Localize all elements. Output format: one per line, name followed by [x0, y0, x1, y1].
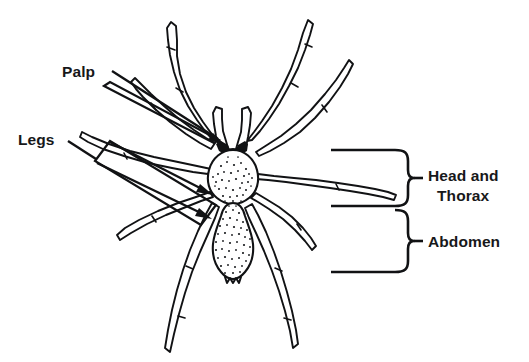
cephalothorax-outline — [208, 150, 258, 204]
spider-anatomy-figure: Palp Legs Head and Thorax Abdomen — [0, 0, 529, 362]
palp-leader-line — [112, 71, 218, 139]
label-legs: Legs — [18, 131, 55, 148]
brace-abdomen — [395, 210, 414, 272]
label-head-and-thorax-line2: Thorax — [437, 187, 490, 204]
right-braces-group — [331, 150, 423, 272]
label-palp: Palp — [62, 63, 95, 80]
leg-upper-left-2 — [131, 78, 215, 149]
leg-lower-left-5 — [165, 203, 219, 352]
cephalothorax — [208, 150, 258, 204]
brace-head-and-thorax — [395, 150, 414, 206]
label-abdomen: Abdomen — [428, 233, 500, 250]
leg-right-3 — [256, 174, 396, 200]
label-head-and-thorax-line1: Head and — [428, 167, 499, 184]
diagram-canvas: Palp Legs Head and Thorax Abdomen — [0, 0, 529, 362]
